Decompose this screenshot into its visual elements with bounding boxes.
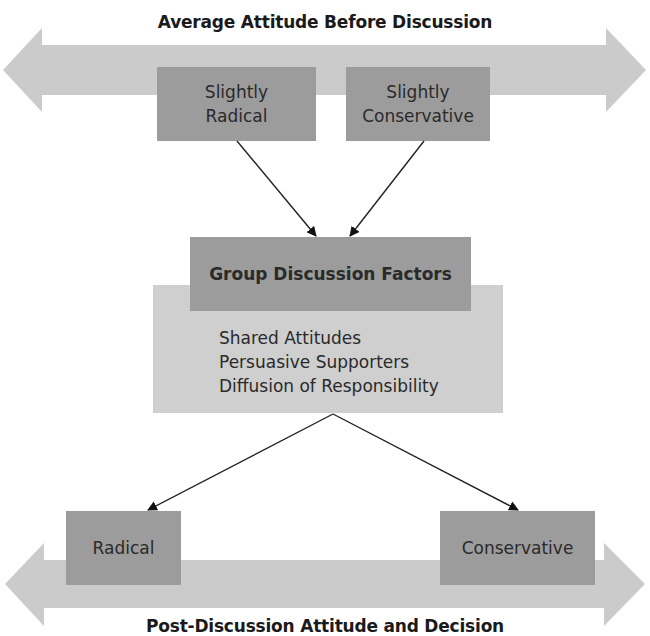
arrow-slightly-conservative-to-discussion	[350, 141, 424, 236]
arrow-discussion-to-radical	[148, 414, 333, 510]
arrow-discussion-to-conservative	[333, 414, 518, 510]
arrow-slightly-radical-to-discussion	[237, 141, 316, 236]
